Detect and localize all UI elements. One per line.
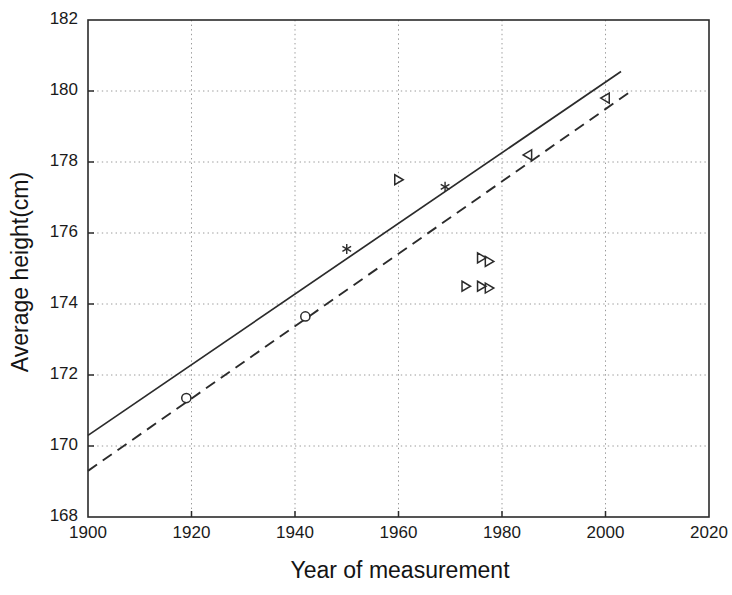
y-tick-label: 174 [50,293,78,312]
x-axis-ticks [192,511,606,517]
x-tick-label: 1940 [276,523,314,542]
trend-line-dashed [88,91,631,471]
scatter-plot-canvas: 1900192019401960198020002020 16817017217… [0,0,732,595]
y-axis-title: Average height(cm) [7,172,33,372]
x-tick-label: 2000 [587,523,625,542]
marker-triangle-right [395,175,404,185]
marker-group [342,182,449,254]
marker-circle [182,393,191,402]
y-tick-label: 172 [50,364,78,383]
marker-triangle-right [485,283,494,293]
vertical-gridlines [192,20,606,517]
data-markers [182,93,610,403]
trend-lines [88,71,631,470]
marker-circle [301,312,310,321]
x-tick-label: 1980 [483,523,521,542]
marker-group [523,93,609,160]
marker-triangle-right [485,256,494,266]
x-tick-labels: 1900192019401960198020002020 [69,523,728,542]
y-tick-label: 180 [50,80,78,99]
y-tick-label: 176 [50,222,78,241]
marker-triangle-left [523,150,532,160]
y-axis-ticks [88,91,94,446]
y-tick-label: 182 [50,9,78,28]
x-axis-title: Year of measurement [290,557,510,583]
x-tick-label: 2020 [690,523,728,542]
y-tick-label: 170 [50,435,78,454]
trend-line-solid [88,71,621,435]
marker-star [342,244,351,254]
x-tick-label: 1900 [69,523,107,542]
chart-figure: 1900192019401960198020002020 16817017217… [0,0,732,595]
x-tick-label: 1960 [380,523,418,542]
y-tick-label: 168 [50,506,78,525]
marker-triangle-right [462,281,471,291]
y-tick-labels: 168170172174176178180182 [50,9,78,525]
x-tick-label: 1920 [173,523,211,542]
y-tick-label: 178 [50,151,78,170]
